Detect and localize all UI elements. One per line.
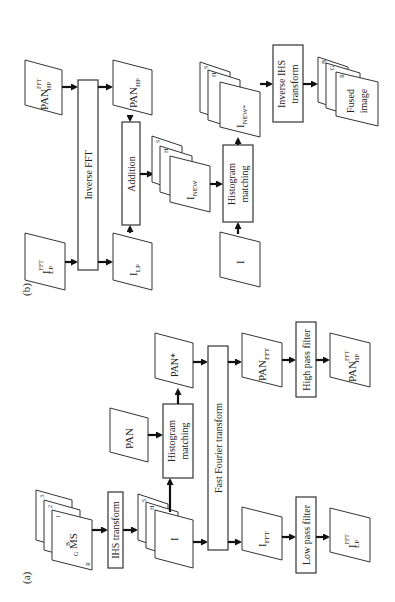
inew-i-sheet	[170, 156, 210, 212]
fused-image-stack: B G R Fused image	[318, 57, 378, 126]
pan-star-label: PAN*	[169, 353, 180, 377]
ihs-component-stack: S H I	[138, 494, 193, 568]
inverse-fft-label: Inverse FFT	[83, 150, 94, 199]
ms-image-stack: 3 2 1 B G R MS	[36, 490, 92, 570]
i-lp-sheet	[113, 233, 152, 290]
histogram-matching-label-a-line2: matching	[179, 422, 190, 459]
inewstar-i-sheet	[220, 82, 260, 137]
pan-label: PAN	[123, 428, 135, 449]
inverse-ihs-label-line2: transform	[289, 64, 300, 103]
ms-label: MS	[67, 533, 79, 549]
inewstar-s-label: S	[203, 66, 209, 69]
i-label: I	[168, 537, 180, 541]
diagram-canvas: (a) 3 2 1 B G R MS IHS transform S H I	[0, 0, 395, 602]
inew-h-label: H	[163, 148, 169, 153]
fused-band-g-label: G	[329, 65, 335, 70]
fft-label: Fast Fourier transform	[213, 403, 224, 493]
inew-star-stack: S H INEW*	[200, 62, 260, 137]
i-lp-fft-sheet-a	[330, 508, 370, 562]
histogram-matching-label-a-line1: Histogram	[166, 420, 177, 462]
fused-band-b-label: B	[321, 60, 327, 64]
panel-b: (b) IFFTLP PANFFTHP Inverse FFT ILP PANH…	[20, 45, 378, 296]
ms-band-2-number: 2	[47, 505, 53, 508]
panel-a-label: (a)	[20, 571, 33, 584]
fused-band-r-label: R	[339, 74, 345, 78]
panel-b-label: (b)	[20, 283, 33, 296]
ms-band-1-number: 1	[55, 515, 61, 518]
i-fft-sheet	[242, 507, 282, 560]
inew-s-label: S	[155, 140, 161, 143]
ms-band-r-label: R	[85, 562, 91, 566]
fused-image-label-line1: Fused	[345, 89, 356, 113]
s-label: S	[141, 499, 147, 502]
panel-a: (a) 3 2 1 B G R MS IHS transform S H I	[20, 322, 370, 584]
histogram-matching-label-b-line1: Histogram	[226, 163, 237, 205]
low-pass-filter-label: Low pass filter	[301, 504, 312, 565]
addition-label: Addition	[126, 156, 137, 192]
fused-band-1-sheet	[336, 72, 378, 126]
inew-stack: S H INEW	[152, 136, 210, 212]
high-pass-filter-label: High pass filter	[301, 329, 312, 391]
fused-image-label-line2: image	[358, 88, 369, 113]
diagram-stage: (a) 3 2 1 B G R MS IHS transform S H I	[0, 0, 395, 602]
ms-band-3-number: 3	[39, 495, 45, 498]
i-lp-fft-sheet-b	[25, 233, 65, 290]
inverse-ihs-label-line1: Inverse IHS	[276, 60, 287, 108]
h-label: H	[149, 505, 155, 510]
ihs-transform-label: IHS transform	[110, 501, 121, 559]
inewstar-h-label: H	[211, 72, 217, 77]
i-label-b: I	[234, 260, 246, 264]
histogram-matching-label-b-line2: matching	[239, 165, 250, 202]
ms-band-g-label: G	[73, 551, 79, 556]
